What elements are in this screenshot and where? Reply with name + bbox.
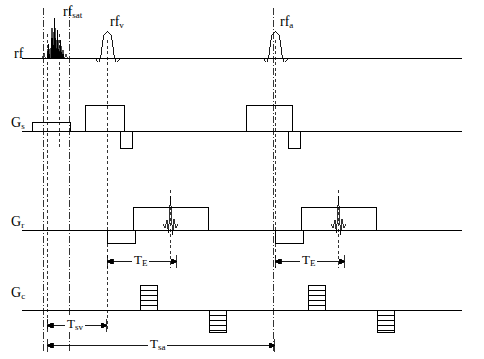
gc-channel-label: Gc [11,285,25,301]
rf-sat-pulse [47,18,64,59]
dashed-marker-lines [48,34,339,330]
tsv-label: Tsv [65,316,85,332]
dash-dot-marker-lines [44,8,274,352]
measure-bars [47,255,345,352]
gs-channel-label: Gs [11,115,25,131]
gr-channel-label: Gr [11,214,24,230]
rf-a-label: rfa [280,14,293,30]
te-first-label: TE [132,252,149,268]
pulse-sequence-diagram: rf rfsat rfv rfa Gs Gr Gc TE TE Tsv Tsa [0,0,484,359]
rf-sat-label: rfsat [63,4,82,20]
rf-channel-label: rf [14,46,23,62]
tsa-label: Tsa [148,336,167,352]
gc-waveform [140,286,394,333]
diagram-canvas [0,0,484,359]
gr-echo-signals [163,196,346,235]
gs-waveform [32,106,300,149]
rf-v-label: rfv [110,14,124,30]
te-second-label: TE [300,252,317,268]
